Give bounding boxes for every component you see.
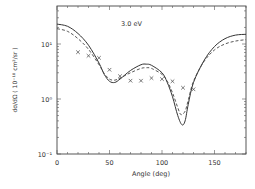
cross-section-chart: 050100150 10⁻¹10⁰10¹ 3.0 eV Angle (deg) … (0, 0, 255, 189)
x-tick-labels: 050100150 (55, 159, 221, 167)
y-tick-label: 10⁰ (41, 96, 52, 104)
y-tick-labels: 10⁻¹10⁰10¹ (38, 41, 53, 159)
x-tick-label: 150 (208, 159, 220, 167)
y-tick-label: 10¹ (41, 41, 52, 49)
x-marker (118, 74, 122, 78)
x-marker (87, 54, 91, 58)
y-axis-label: dσ/dΩ ( 10⁻¹⁸ cm²/sr ) (11, 47, 18, 112)
solid-theory-curve (57, 24, 246, 125)
x-tick-label: 0 (55, 159, 59, 167)
x-tick-label: 50 (105, 159, 113, 167)
x-axis-label: Angle (deg) (132, 170, 170, 178)
axis-ticks (57, 6, 246, 154)
y-tick-label: 10⁻¹ (38, 151, 53, 159)
x-marker (150, 76, 154, 80)
x-marker (139, 79, 143, 83)
plot-frame (57, 6, 246, 154)
x-marker (171, 79, 175, 83)
energy-annotation: 3.0 eV (121, 20, 142, 28)
x-marker (108, 68, 112, 72)
x-marker (181, 86, 185, 90)
x-tick-label: 100 (156, 159, 168, 167)
x-marker (76, 50, 80, 54)
x-marker (129, 79, 133, 83)
x-marker (160, 77, 164, 81)
x-marker (192, 88, 196, 92)
x-marker (97, 56, 101, 60)
